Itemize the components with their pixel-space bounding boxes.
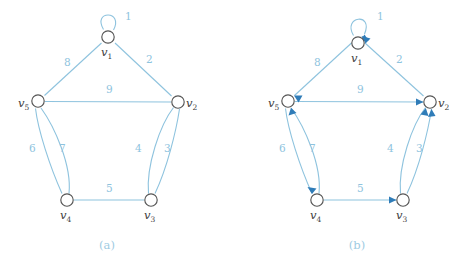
panel-a-vertex-labels: v1 v2 v3 v4 v5 xyxy=(18,45,198,224)
vertex-label-a-v1: v1 xyxy=(101,45,112,61)
edge-label-b-2: 2 xyxy=(396,53,403,65)
vertex-a-v4[interactable] xyxy=(61,194,73,206)
vertex-b-v4[interactable] xyxy=(311,194,323,206)
graph-figure-pair: v1 v2 v3 v4 v5 1 2 8 9 3 4 5 6 7 xyxy=(0,0,470,266)
vertex-label-b-v5: v5 xyxy=(268,96,280,112)
vertex-a-v3[interactable] xyxy=(145,194,157,206)
edge-label-a-2: 2 xyxy=(146,53,153,65)
vertex-b-v1[interactable] xyxy=(352,37,364,49)
vertex-a-v1[interactable] xyxy=(102,31,114,43)
edge-a-1-loop xyxy=(101,15,116,30)
edge-label-b-7: 7 xyxy=(309,142,316,154)
edge-a-9 xyxy=(45,102,171,103)
edge-label-a-4: 4 xyxy=(135,142,142,154)
vertex-label-a-v2: v2 xyxy=(186,96,198,112)
caption-a: (a) xyxy=(99,238,115,252)
caption-b: (b) xyxy=(349,238,365,252)
vertex-b-v5[interactable] xyxy=(282,95,294,107)
panel-b: v1 v2 v3 v4 v5 1 2 8 9 3 4 5 6 7 xyxy=(268,10,450,224)
edge-b-2 xyxy=(365,43,424,96)
vertex-label-a-v4: v4 xyxy=(60,208,72,224)
edge-label-b-4: 4 xyxy=(387,142,394,154)
edge-label-b-8: 8 xyxy=(314,56,321,68)
edge-label-a-9: 9 xyxy=(106,83,113,95)
vertex-a-v2[interactable] xyxy=(172,96,184,108)
edge-a-2 xyxy=(115,43,172,96)
edge-b-8 xyxy=(295,43,352,96)
edge-label-a-7: 7 xyxy=(59,142,66,154)
arrowhead-b-6 xyxy=(308,187,317,194)
edge-label-a-1: 1 xyxy=(125,10,132,22)
vertex-label-b-v4: v4 xyxy=(310,208,322,224)
edge-label-a-8: 8 xyxy=(64,56,71,68)
panel-b-vertex-labels: v1 v2 v3 v4 v5 xyxy=(268,51,450,224)
edge-label-a-3: 3 xyxy=(164,142,171,154)
arrowhead-b-9 xyxy=(416,99,424,106)
edge-a-8 xyxy=(45,43,102,96)
vertex-label-b-v1: v1 xyxy=(351,51,362,67)
edge-b-1-loop xyxy=(351,19,366,35)
vertex-b-v2[interactable] xyxy=(424,96,436,108)
edge-b-9 xyxy=(295,102,423,103)
panel-a: v1 v2 v3 v4 v5 1 2 8 9 3 4 5 6 7 xyxy=(18,10,198,224)
arrowhead-b-5 xyxy=(389,197,397,204)
edge-label-b-3: 3 xyxy=(416,142,423,154)
vertex-label-b-v3: v3 xyxy=(396,208,408,224)
vertex-a-v5[interactable] xyxy=(32,95,44,107)
figure-captions: (a) (b) xyxy=(99,238,365,252)
edge-label-b-9: 9 xyxy=(357,83,364,95)
arrowhead-b-3 xyxy=(428,109,436,117)
vertex-label-a-v5: v5 xyxy=(18,96,30,112)
vertex-label-a-v3: v3 xyxy=(144,208,156,224)
edge-label-b-5: 5 xyxy=(357,182,364,194)
vertex-b-v3[interactable] xyxy=(397,194,409,206)
vertex-label-b-v2: v2 xyxy=(438,96,450,112)
edge-label-a-5: 5 xyxy=(106,182,113,194)
edge-label-b-6: 6 xyxy=(279,142,286,154)
edge-label-b-1: 1 xyxy=(377,10,384,22)
edge-label-a-6: 6 xyxy=(29,142,36,154)
